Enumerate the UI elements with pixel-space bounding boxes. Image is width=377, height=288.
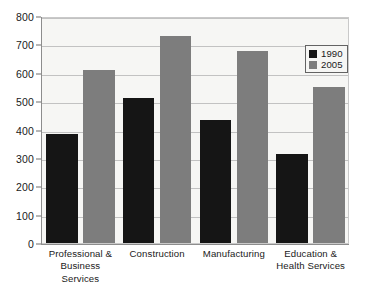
- bar: [276, 154, 308, 243]
- bar: [237, 51, 269, 243]
- plot-area: [42, 17, 349, 244]
- bar: [313, 87, 345, 243]
- legend-item: 2005: [309, 59, 343, 70]
- bar: [200, 120, 232, 243]
- bars-group: [42, 18, 348, 243]
- x-axis-tick-label: Education &Health Services: [272, 248, 349, 273]
- y-axis-tick-label: 500: [16, 96, 34, 108]
- bar: [160, 36, 192, 243]
- bar: [123, 98, 155, 243]
- bar: [46, 134, 78, 243]
- x-axis-tick-label: Professional &Business Services: [42, 248, 119, 285]
- y-axis: 0100200300400500600700800: [0, 0, 40, 288]
- legend-swatch-icon: [309, 50, 317, 58]
- legend: 19902005: [305, 45, 348, 73]
- y-axis-tick-label: 600: [16, 68, 34, 80]
- y-axis-tick-label: 400: [16, 125, 34, 137]
- y-axis-tick-label: 300: [16, 153, 34, 165]
- y-axis-tick-label: 0: [28, 238, 34, 250]
- legend-label: 1990: [321, 48, 343, 59]
- x-axis-tick-label: Construction: [119, 248, 196, 260]
- y-axis-tick-label: 700: [16, 39, 34, 51]
- x-axis-tick-label: Manufacturing: [196, 248, 273, 260]
- x-axis: Professional &Business ServicesConstruct…: [42, 248, 349, 286]
- bar: [83, 70, 115, 243]
- legend-swatch-icon: [309, 61, 317, 69]
- legend-label: 2005: [321, 59, 343, 70]
- y-axis-tick-label: 800: [16, 11, 34, 23]
- y-axis-tick-label: 200: [16, 181, 34, 193]
- y-axis-tick-label: 100: [16, 210, 34, 222]
- x-axis-line: [41, 244, 349, 245]
- legend-item: 1990: [309, 48, 343, 59]
- bar-chart-figure: 0100200300400500600700800 Professional &…: [0, 0, 377, 288]
